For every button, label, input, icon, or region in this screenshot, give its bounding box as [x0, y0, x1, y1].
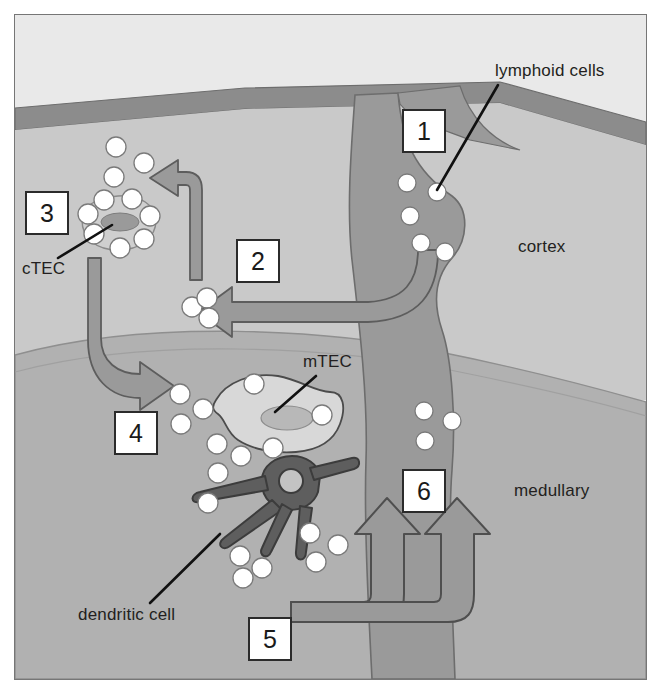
step-3[interactable]: 3 [26, 192, 68, 234]
dendritic-nucleus [279, 469, 303, 493]
lymphoid-cell [428, 183, 446, 201]
lymphoid-cell [306, 552, 326, 572]
lymphoid-cell [134, 229, 154, 249]
lymphoid-cell [207, 434, 227, 454]
region-label-cortex: cortex [518, 237, 566, 256]
step-3-number: 3 [40, 199, 54, 227]
step-1[interactable]: 1 [403, 110, 445, 152]
lymphoid-cell [94, 190, 114, 210]
lymphoid-cell [415, 402, 433, 420]
ctec-label: cTEC [22, 259, 65, 278]
lymphoid-cell [78, 204, 98, 224]
lymphoid-cell [193, 399, 213, 419]
lymphoid-cell [443, 412, 461, 430]
lymphoid-cell [401, 207, 419, 225]
lymphoid-cell [208, 463, 228, 483]
lymphoid-cell [300, 523, 320, 543]
lymphoid-cell [106, 137, 126, 157]
mtec-label: mTEC [303, 352, 352, 371]
lymphoid-cell [312, 405, 332, 425]
step-2-number: 2 [251, 247, 265, 275]
lymphoid-cell [328, 535, 348, 555]
mtec-nucleus [261, 406, 313, 430]
lymphoid-cell [231, 446, 251, 466]
step-5-number: 5 [263, 625, 277, 653]
lymphoid-cell [171, 414, 191, 434]
step-1-number: 1 [417, 117, 431, 145]
lymphoid-cell [122, 189, 142, 209]
region-label-medullary: medullary [514, 481, 590, 500]
lymphoid-cell [252, 558, 272, 578]
lymphoid-cell [197, 288, 217, 308]
step-2[interactable]: 2 [237, 240, 279, 282]
lymphoid-cell [244, 374, 264, 394]
thymus-diagram: lymphoid cellscTECmTECdendritic cell cor… [0, 0, 661, 694]
lymphoid-cell [233, 568, 253, 588]
lymphoid-cell [263, 438, 283, 458]
lymphoid-cell [134, 153, 154, 173]
lymphoid-cell [104, 167, 124, 187]
lymphoid-cell [198, 493, 218, 513]
lymphoid-cells-label: lymphoid cells [495, 61, 605, 80]
step-4[interactable]: 4 [115, 412, 157, 454]
lymphoid-cell [140, 206, 160, 226]
lymphoid-cell [436, 243, 454, 261]
lymphoid-cell [230, 546, 250, 566]
lymphoid-cell [110, 238, 130, 258]
dendritic-cell-label: dendritic cell [78, 605, 175, 624]
lymphoid-cell [398, 174, 416, 192]
step-5[interactable]: 5 [249, 618, 291, 660]
step-4-number: 4 [129, 419, 143, 447]
lymphoid-cell [199, 308, 219, 328]
lymphoid-cell [412, 234, 430, 252]
lymphoid-cell [170, 384, 190, 404]
step-6[interactable]: 6 [403, 470, 445, 512]
lymphoid-cell [416, 432, 434, 450]
step-6-number: 6 [417, 477, 431, 505]
